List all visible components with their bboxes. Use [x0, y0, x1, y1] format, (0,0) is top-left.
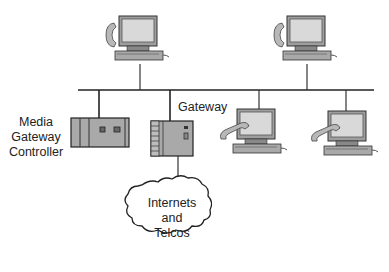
cloud-label: Internets and Telcos — [140, 196, 204, 241]
media-gateway-controller-label: Media Gateway Controller — [2, 115, 70, 160]
label-line: Controller — [2, 145, 70, 160]
computer-top-left — [106, 16, 169, 60]
media-gateway-controller-device — [71, 118, 129, 147]
gateway-label: Gateway — [178, 100, 227, 115]
label-line: Gateway — [2, 130, 70, 145]
computer-bottom-mid — [221, 109, 288, 153]
computer-bottom-right — [312, 111, 379, 155]
gateway-device — [151, 121, 193, 156]
label-line: Internets — [140, 196, 204, 211]
label-line: Media — [2, 115, 70, 130]
label-line: and — [140, 211, 204, 226]
label-line: Telcos — [140, 226, 204, 241]
network-diagram: Media Gateway Controller Gateway Interne… — [0, 0, 389, 272]
computer-top-right — [274, 16, 337, 60]
